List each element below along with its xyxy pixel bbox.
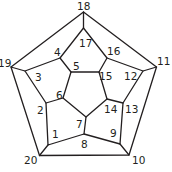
vertex-labels: 18 11 10 20 19 17 4 16 5 15 12 3 6 2 14 … (0, 0, 170, 166)
spoke-20 (40, 145, 49, 156)
vertex-label-6: 6 (56, 89, 63, 101)
vertex-label-15: 15 (99, 70, 112, 82)
vertex-label-3: 3 (35, 71, 42, 83)
vertex-label-2: 2 (37, 104, 44, 116)
spoke-8-7 (84, 117, 86, 134)
dodecahedron-graph: 18 11 10 20 19 17 4 16 5 15 12 3 6 2 14 … (0, 0, 172, 172)
vertex-label-18: 18 (77, 0, 90, 12)
spoke-11 (143, 67, 157, 71)
vertex-label-17: 17 (79, 37, 92, 49)
vertex-label-16: 16 (107, 45, 121, 57)
vertex-label-8: 8 (81, 138, 88, 150)
vertex-label-1: 1 (52, 128, 59, 140)
vertex-label-13: 13 (125, 103, 138, 115)
vertex-label-10: 10 (132, 154, 145, 166)
vertex-label-14: 14 (104, 103, 118, 115)
vertex-label-19: 19 (0, 57, 11, 69)
vertex-label-12: 12 (124, 70, 137, 82)
vertex-label-5: 5 (73, 60, 80, 72)
vertex-label-9: 9 (110, 127, 117, 139)
spoke-4-5 (60, 58, 71, 72)
vertex-label-20: 20 (24, 154, 37, 166)
spoke-19 (11, 67, 25, 71)
spoke-10 (120, 144, 129, 155)
vertex-label-7: 7 (76, 118, 83, 130)
vertex-label-11: 11 (157, 55, 170, 67)
vertex-label-4: 4 (54, 46, 61, 58)
